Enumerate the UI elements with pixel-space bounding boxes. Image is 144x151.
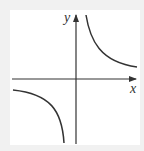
y-axis-label: y <box>62 10 71 25</box>
hyperbola-graph: y x <box>0 0 144 151</box>
x-axis-label: x <box>129 81 137 96</box>
curve-branch-left <box>13 90 64 143</box>
curve-branch-right <box>86 15 137 67</box>
